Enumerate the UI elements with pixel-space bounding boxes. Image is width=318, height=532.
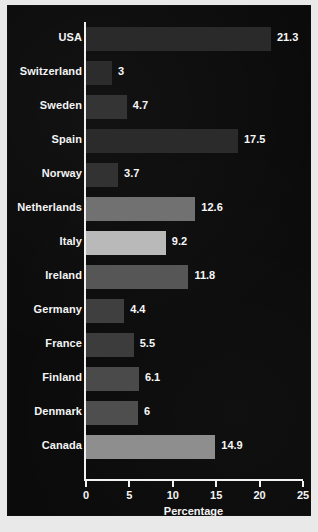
x-axis-tick-label: 25 [297, 489, 309, 501]
bar-category-label: Germany [34, 303, 82, 315]
bar-category-label: Norway [42, 167, 82, 179]
bar-value-label: 5.5 [140, 337, 155, 349]
bar-row: Italy9.2 [7, 226, 311, 260]
bar [86, 401, 138, 425]
bar-row: Sweden4.7 [7, 90, 311, 124]
bar-value-label: 3.7 [124, 167, 139, 179]
bar-value-label: 6.1 [145, 371, 160, 383]
x-axis-tick-mark [85, 481, 87, 487]
x-axis-tick-mark [259, 481, 261, 487]
bar [86, 265, 188, 289]
bar-category-label: Ireland [45, 269, 82, 281]
bar-value-label: 21.3 [277, 31, 298, 43]
bar-value-label: 4.7 [133, 99, 148, 111]
bar-category-label: Sweden [40, 99, 82, 111]
bar [86, 129, 238, 153]
bar-category-label: France [45, 337, 82, 349]
bar [86, 231, 166, 255]
bar-value-label: 4.4 [130, 303, 145, 315]
bar-value-label: 6 [144, 405, 150, 417]
x-axis-tick-mark [128, 481, 130, 487]
x-axis-tick-mark [172, 481, 174, 487]
x-axis-title: Percentage [84, 505, 303, 516]
bar-category-label: Italy [59, 235, 82, 247]
bar-value-label: 17.5 [244, 133, 265, 145]
bar-row: Switzerland3 [7, 56, 311, 90]
bar-value-label: 11.8 [194, 269, 215, 281]
bar-category-label: USA [58, 31, 82, 43]
bar [86, 367, 139, 391]
x-axis-tick-label: 20 [253, 489, 265, 501]
bar-row: Finland6.1 [7, 362, 311, 396]
bar-row: Canada14.9 [7, 430, 311, 464]
bar-value-label: 3 [118, 65, 124, 77]
bar-category-label: Switzerland [20, 65, 82, 77]
bar-value-label: 12.6 [201, 201, 222, 213]
x-axis-line [84, 479, 303, 481]
chart-plate: USA21.3Switzerland3Sweden4.7Spain17.5Nor… [7, 5, 311, 516]
bar-row: Spain17.5 [7, 124, 311, 158]
bar-category-label: Netherlands [17, 201, 82, 213]
bar-category-label: Denmark [34, 405, 82, 417]
x-axis-tick-label: 15 [210, 489, 222, 501]
bar-row: Denmark6 [7, 396, 311, 430]
bar [86, 197, 195, 221]
bar-row: Norway3.7 [7, 158, 311, 192]
x-axis-tick-label: 5 [126, 489, 132, 501]
bar-category-label: Finland [42, 371, 82, 383]
x-axis-tick-mark [302, 481, 304, 487]
bar-category-label: Spain [52, 133, 82, 145]
bar [86, 27, 271, 51]
x-axis-tick-label: 0 [83, 489, 89, 501]
bar-row: Ireland11.8 [7, 260, 311, 294]
bar-chart: USA21.3Switzerland3Sweden4.7Spain17.5Nor… [7, 5, 311, 516]
x-axis-tick-label: 10 [167, 489, 179, 501]
bar [86, 61, 112, 85]
bar [86, 299, 124, 323]
bar [86, 163, 118, 187]
bar-row: Netherlands12.6 [7, 192, 311, 226]
figure-frame: USA21.3Switzerland3Sweden4.7Spain17.5Nor… [0, 0, 318, 532]
bar [86, 435, 215, 459]
bar [86, 333, 134, 357]
bar [86, 95, 127, 119]
bar-value-label: 9.2 [172, 235, 187, 247]
bar-row: Germany4.4 [7, 294, 311, 328]
bar-value-label: 14.9 [221, 439, 242, 451]
x-axis-tick-mark [215, 481, 217, 487]
bar-row: USA21.3 [7, 22, 311, 56]
bar-row: France5.5 [7, 328, 311, 362]
bar-category-label: Canada [42, 439, 82, 451]
